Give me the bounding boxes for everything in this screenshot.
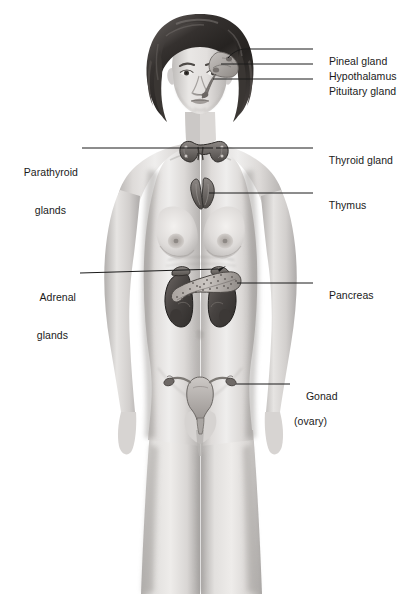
label-adrenal-subtext: glands bbox=[0, 329, 76, 342]
label-gonad-subtext: (ovary) bbox=[294, 415, 338, 428]
label-adrenal-text: Adrenal bbox=[0, 291, 76, 304]
endocrine-system-figure: Pineal gland Hypothalamus Pituitary glan… bbox=[0, 0, 401, 594]
label-adrenal-glands: Adrenal glands bbox=[0, 266, 76, 366]
label-gonad-ovary: Gonad (ovary) bbox=[294, 377, 338, 452]
label-parathyroid-glands: Parathyroid glands bbox=[0, 141, 78, 241]
label-gonad-text: Gonad bbox=[306, 390, 338, 402]
label-pancreas: Pancreas bbox=[317, 276, 374, 314]
label-thyroid-gland-text: Thyroid gland bbox=[329, 154, 393, 166]
label-pituitary-gland: Pituitary gland bbox=[317, 72, 396, 110]
label-thyroid-gland: Thyroid gland bbox=[317, 141, 393, 179]
label-thymus: Thymus bbox=[317, 186, 366, 224]
label-parathyroid-text: Parathyroid bbox=[0, 166, 78, 179]
label-pituitary-gland-text: Pituitary gland bbox=[329, 85, 396, 97]
label-thymus-text: Thymus bbox=[329, 199, 367, 211]
label-parathyroid-subtext: glands bbox=[0, 204, 78, 217]
label-pancreas-text: Pancreas bbox=[329, 289, 374, 301]
